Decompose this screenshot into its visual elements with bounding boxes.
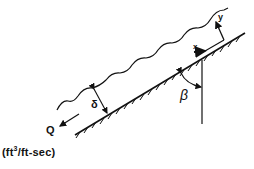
inclined-wall [75,33,245,138]
x-axis-label: x [193,42,198,51]
flow-rate-units: (ft3/ft-sec) [2,145,55,158]
wall-hatching [76,36,240,138]
angle-label: β [179,87,188,103]
flow-rate-indicator: Q [46,114,79,136]
thickness-dimension: δ [91,89,107,113]
y-axis-indicator: y [205,12,224,51]
y-axis-label: y [218,12,223,22]
thickness-label: δ [91,98,98,110]
film-flow-diagram: δ β x y Q [0,0,254,169]
flow-rate-label: Q [46,124,55,136]
x-axis-indicator: x [193,42,205,52]
